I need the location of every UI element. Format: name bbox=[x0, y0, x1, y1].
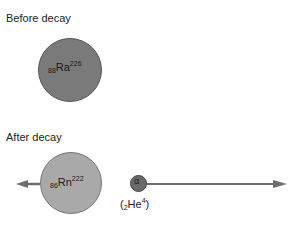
alpha-symbol: α bbox=[134, 176, 139, 186]
radon-symbol: Rn bbox=[58, 176, 72, 188]
radon-atomic-number: 86 bbox=[50, 182, 58, 189]
alpha-velocity-arrow bbox=[146, 180, 287, 188]
helium-symbol: He bbox=[128, 198, 142, 210]
alpha-helium-label: (2He4) bbox=[120, 197, 149, 211]
radon-label: 86Rn222 bbox=[50, 175, 84, 189]
radon-recoil-arrow bbox=[16, 180, 40, 188]
radon-mass-number: 222 bbox=[72, 175, 84, 182]
